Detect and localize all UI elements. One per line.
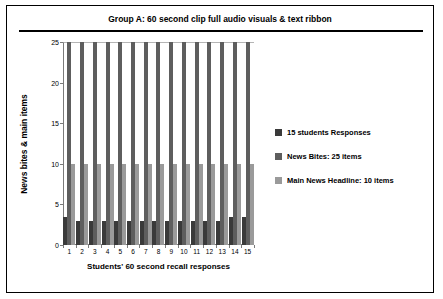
x-tick-label: 13	[219, 248, 226, 255]
x-tick-mark	[178, 245, 179, 248]
bar-group	[63, 42, 76, 245]
x-tick-label: 9	[169, 248, 173, 255]
x-tick-mark	[152, 245, 153, 248]
x-tick-mark	[76, 245, 77, 248]
y-tick-label: 25	[51, 39, 59, 46]
x-tick-mark	[229, 245, 230, 248]
x-tick-mark	[190, 245, 191, 248]
x-tick-mark	[139, 245, 140, 248]
x-tick-mark	[63, 245, 64, 248]
bar-group	[178, 42, 191, 245]
legend-swatch-icon	[275, 177, 282, 184]
bar-group	[229, 42, 242, 245]
x-tick-mark	[114, 245, 115, 248]
y-tick-label: 10	[51, 160, 59, 167]
chart-legend: 15 students ResponsesNews Bites: 25 item…	[275, 128, 425, 200]
y-tick-label: 0	[55, 242, 59, 249]
legend-label: 15 students Responses	[287, 128, 371, 137]
chart-title: Group A: 60 second clip full audio visua…	[7, 14, 433, 24]
bar-group	[216, 42, 229, 245]
legend-item: 15 students Responses	[275, 128, 425, 137]
y-tick-label: 15	[51, 120, 59, 127]
x-tick-mark	[88, 245, 89, 248]
x-axis-label: Students' 60 second recall responses	[63, 262, 254, 271]
legend-item: Main News Headline: 10 items	[275, 176, 425, 185]
x-tick-label: 2	[80, 248, 84, 255]
bar-group	[114, 42, 127, 245]
y-axis-label: News bites & main items	[17, 42, 31, 245]
bar-group	[203, 42, 216, 245]
legend-label: Main News Headline: 10 items	[287, 176, 394, 185]
bar-group	[241, 42, 254, 245]
x-tick-label: 1	[68, 248, 72, 255]
x-tick-label: 10	[180, 248, 187, 255]
x-tick-label: 8	[157, 248, 161, 255]
x-tick-mark	[127, 245, 128, 248]
x-tick-label: 3	[93, 248, 97, 255]
x-tick-mark	[101, 245, 102, 248]
x-tick-label: 7	[144, 248, 148, 255]
x-tick-label: 5	[118, 248, 122, 255]
bar-group	[152, 42, 165, 245]
x-tick-mark	[254, 245, 255, 248]
x-tick-mark	[203, 245, 204, 248]
bar-group	[88, 42, 101, 245]
bar-group	[127, 42, 140, 245]
x-tick-mark	[165, 245, 166, 248]
y-tick-label: 5	[55, 201, 59, 208]
bar-group	[165, 42, 178, 245]
x-tick-mark	[241, 245, 242, 248]
legend-label: News Bites: 25 items	[287, 152, 362, 161]
x-tick-mark	[216, 245, 217, 248]
x-tick-label: 6	[131, 248, 135, 255]
bar-group	[101, 42, 114, 245]
plot-area: 0510152025 123456789101112131415	[63, 42, 254, 245]
legend-item: News Bites: 25 items	[275, 152, 425, 161]
x-tick-label: 12	[206, 248, 213, 255]
bar-group	[139, 42, 152, 245]
bar-group	[190, 42, 203, 245]
x-tick-label: 11	[193, 248, 200, 255]
y-axis-label-text: News bites & main items	[19, 94, 29, 194]
legend-swatch-icon	[275, 153, 282, 160]
chart-figure: Group A: 60 second clip full audio visua…	[6, 5, 434, 293]
x-tick-label: 14	[231, 248, 238, 255]
bar-group	[76, 42, 89, 245]
title-divider	[19, 30, 423, 32]
x-tick-label: 4	[106, 248, 110, 255]
y-tick-label: 20	[51, 79, 59, 86]
bar	[250, 164, 254, 245]
x-tick-label: 15	[244, 248, 251, 255]
legend-swatch-icon	[275, 129, 282, 136]
